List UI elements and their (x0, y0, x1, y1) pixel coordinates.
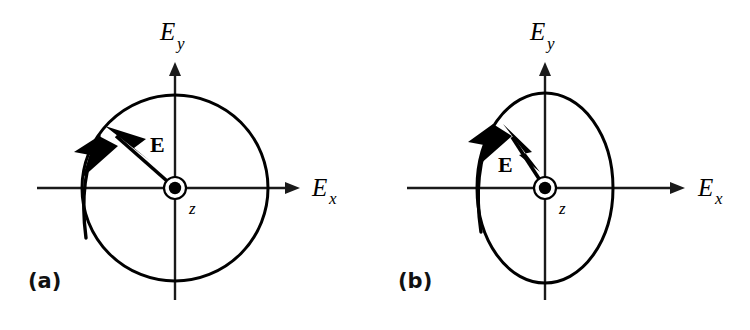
y-axis-arrowhead-icon (539, 62, 551, 76)
y-axis-subscript-b: y (545, 34, 555, 53)
y-axis-arrowhead-icon (169, 62, 181, 76)
panel-a: z E E x E y (a) (28, 18, 337, 300)
polarization-diagram-svg: z E E x E y (a) (0, 0, 750, 330)
polarization-figure: z E E x E y (a) (0, 0, 750, 330)
panel-b: z E E x E y (b) (398, 18, 723, 300)
z-axis-label-a: z (188, 199, 196, 218)
panel-label-b: (b) (398, 269, 432, 293)
rotation-arrow-b (468, 124, 512, 232)
y-axis-label-b: E (529, 18, 545, 45)
x-axis-arrowhead-icon (670, 182, 685, 194)
panel-label-a: (a) (28, 269, 61, 293)
y-axis-label-a: E (159, 18, 175, 45)
z-axis-label-b: z (558, 199, 566, 218)
x-axis-subscript-b: x (714, 189, 723, 208)
e-vector-label-b: E (498, 152, 513, 177)
x-axis-label-a: E (311, 174, 327, 201)
x-axis-label-b: E (697, 174, 713, 201)
x-axis-arrowhead-icon (285, 182, 300, 194)
x-axis-subscript-a: x (328, 189, 337, 208)
rotation-arrowhead-icon (74, 136, 118, 178)
y-axis-subscript-a: y (175, 34, 185, 53)
z-out-of-page-dot-icon (539, 182, 551, 194)
origin-marker-b (534, 177, 556, 199)
origin-marker-a (164, 177, 186, 199)
e-vector-label-a: E (150, 132, 165, 157)
z-out-of-page-dot-icon (169, 182, 181, 194)
